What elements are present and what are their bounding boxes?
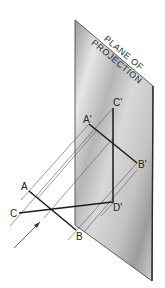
label-D-prime: D' bbox=[113, 202, 122, 213]
label-B-prime: B' bbox=[138, 159, 147, 170]
projection-direction-arrow bbox=[14, 222, 40, 248]
projection-diagram: PLANE OF PROJECTION A B C A' B' C' D' bbox=[0, 0, 165, 288]
label-A-prime: A' bbox=[83, 114, 92, 125]
label-B: B bbox=[76, 231, 83, 242]
label-A: A bbox=[21, 181, 28, 192]
label-C-prime: C' bbox=[113, 97, 122, 108]
plane-right-edge bbox=[152, 86, 153, 281]
label-C: C bbox=[10, 208, 17, 219]
